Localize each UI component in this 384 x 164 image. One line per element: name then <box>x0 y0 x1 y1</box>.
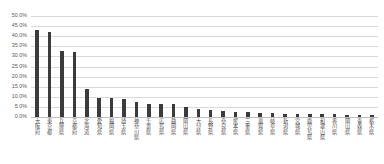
plot-area <box>31 16 378 117</box>
x-axis-tick-label: 埼玉県 <box>121 119 127 135</box>
bar <box>197 109 201 117</box>
x-axis-tick-label: 栃木県 <box>369 119 375 135</box>
y-axis-tick-label: 5.0% <box>15 104 27 109</box>
bar <box>246 112 250 117</box>
x-axis-tick-label: 長野県 <box>207 119 213 135</box>
bar <box>184 107 188 118</box>
x-axis-tick-label: 静岡県 <box>170 119 176 135</box>
x-axis-tick-label: 大分県 <box>195 119 201 135</box>
bar <box>283 114 287 117</box>
x-axis-tick-label: 広島県 <box>158 119 164 135</box>
bar <box>73 52 77 117</box>
x-axis-tick-label: 大阪府 <box>34 119 40 135</box>
bar <box>147 104 151 117</box>
bar <box>97 98 101 117</box>
x-axis-tick-label: 新潟県 <box>282 119 288 135</box>
bar <box>234 112 238 117</box>
bar <box>320 114 324 117</box>
x-axis-tick-label: 青森県 <box>356 119 362 135</box>
bar <box>271 113 275 117</box>
bar <box>122 99 126 117</box>
x-axis-tick-label: 和歌山県 <box>319 119 325 141</box>
y-axis-tick-label: 45.0% <box>12 23 27 28</box>
x-axis-tick-label: 香川県 <box>331 119 337 135</box>
y-axis-tick-label: 10.0% <box>12 94 27 99</box>
bars <box>31 16 378 117</box>
x-axis-tick-label: 鹿児島県 <box>307 119 313 141</box>
x-axis-tick-label: 岡山県 <box>344 119 350 135</box>
x-axis-tick-label: 京都府 <box>71 119 77 135</box>
x-axis-tick-label: 愛知県 <box>96 119 102 135</box>
bar <box>85 89 89 117</box>
x-axis: 大阪府東京都兵庫県京都府北海道愛知県福岡県埼玉県神奈川県千葉県広島県静岡県岡山県… <box>31 119 378 164</box>
gridline <box>31 117 378 118</box>
bar <box>135 102 139 117</box>
y-axis-tick-label: 50.0% <box>12 13 27 18</box>
bar <box>110 98 114 117</box>
bar <box>296 114 300 117</box>
bar <box>308 114 312 117</box>
y-axis-tick-label: 35.0% <box>12 44 27 49</box>
x-axis-tick-label: 三重県 <box>245 119 251 135</box>
x-axis-tick-label: 滋賀県 <box>257 119 263 135</box>
bar <box>258 113 262 117</box>
x-axis-tick-label: 東京都 <box>46 119 52 135</box>
y-axis-tick-label: 15.0% <box>12 84 27 89</box>
x-axis-tick-label: 岡山県 <box>183 119 189 135</box>
bar <box>48 32 52 117</box>
bar-chart: 50.0%45.0%40.0%35.0%30.0%25.0%20.0%15.0%… <box>0 0 384 164</box>
x-axis-tick-label: 神奈川県 <box>133 119 139 141</box>
x-axis-tick-label: 福岡県 <box>108 119 114 135</box>
bar <box>172 104 176 117</box>
x-axis-tick-label: 兵庫県 <box>59 119 65 135</box>
bar <box>358 115 362 117</box>
y-axis-tick-label: 20.0% <box>12 74 27 79</box>
x-axis-tick-label: 岐阜県 <box>269 119 275 135</box>
y-axis-tick-label: 30.0% <box>12 54 27 59</box>
bar <box>333 114 337 117</box>
bar <box>60 51 64 117</box>
bar <box>159 104 163 117</box>
x-axis-tick-label: 宮城県 <box>294 119 300 135</box>
y-axis-tick-label: 0.0% <box>15 114 27 119</box>
x-axis-tick-label: 千葉県 <box>146 119 152 135</box>
y-axis-tick-label: 25.0% <box>12 64 27 69</box>
y-axis-tick-label: 40.0% <box>12 33 27 38</box>
x-axis-tick-label: 奈良県 <box>220 119 226 135</box>
x-axis-tick-label: 熊本県 <box>232 119 238 135</box>
bar <box>209 110 213 117</box>
x-axis-tick-label: 北海道 <box>84 119 90 135</box>
bar <box>370 115 374 117</box>
y-axis: 50.0%45.0%40.0%35.0%30.0%25.0%20.0%15.0%… <box>0 16 29 117</box>
bar <box>221 111 225 117</box>
bar <box>345 115 349 117</box>
bar <box>35 30 39 117</box>
